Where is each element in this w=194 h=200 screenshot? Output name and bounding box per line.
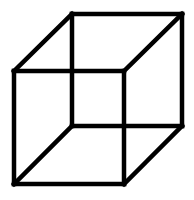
- connector-bottom-left-edge: [14, 126, 72, 184]
- connector-top-right-edge: [124, 14, 182, 71]
- necker-cube-diagram: [0, 0, 194, 200]
- cube-wireframe: [0, 0, 194, 200]
- connector-bottom-right-edge: [124, 126, 182, 184]
- connector-top-left-edge: [14, 14, 72, 71]
